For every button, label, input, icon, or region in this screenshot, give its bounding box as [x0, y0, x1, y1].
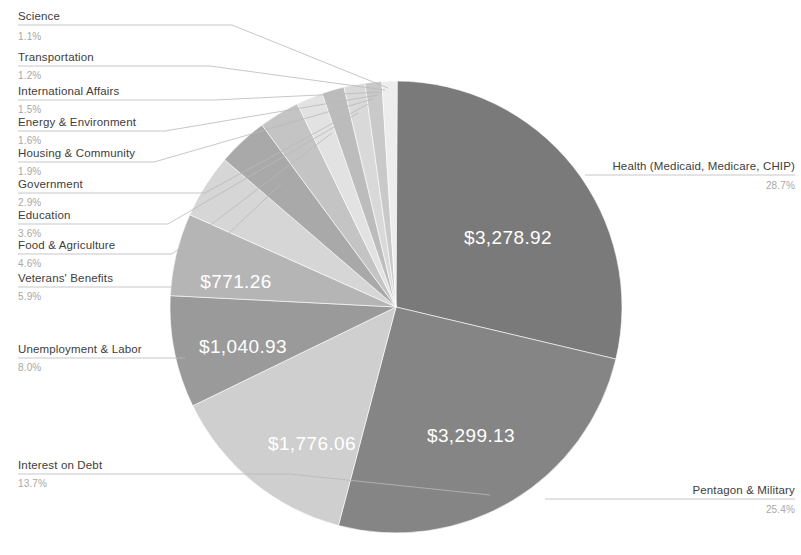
left-callout-labels: Science 1.1% Transportation 1.2% Interna… — [18, 10, 142, 489]
callout-label-international-affairs: International Affairs — [18, 85, 119, 97]
callout-label-pentagon-military: Pentagon & Military — [692, 484, 795, 496]
callout-label-science: Science — [18, 10, 60, 22]
callout-pct-unemployment-labor: 8.0% — [18, 362, 41, 373]
callout-pct-government: 2.9% — [18, 197, 41, 208]
callout-label-health: Health (Medicaid, Medicare, CHIP) — [612, 160, 795, 172]
value-label-health: $3,278.92 — [464, 227, 552, 248]
value-label-veterans-benefits: $771.26 — [200, 271, 271, 292]
callout-pct-interest-on-debt: 13.7% — [18, 478, 47, 489]
callout-pct-veterans-benefits: 5.9% — [18, 291, 41, 302]
callout-label-veterans-benefits: Veterans' Benefits — [18, 272, 113, 284]
right-callout-labels: Health (Medicaid, Medicare, CHIP) 28.7% … — [612, 160, 795, 515]
callout-label-education: Education — [18, 209, 71, 221]
callout-pct-food-agriculture: 4.6% — [18, 258, 41, 269]
callout-pct-transportation: 1.2% — [18, 70, 41, 81]
callout-pct-education: 3.6% — [18, 228, 41, 239]
callout-pct-housing-community: 1.9% — [18, 166, 41, 177]
callout-label-unemployment-labor: Unemployment & Labor — [18, 343, 142, 355]
callout-label-energy-environment: Energy & Environment — [18, 116, 137, 128]
callout-label-transportation: Transportation — [18, 51, 94, 63]
callout-label-housing-community: Housing & Community — [18, 147, 135, 159]
pie-slices-group — [170, 81, 622, 533]
callout-pct-pentagon-military: 25.4% — [766, 504, 795, 515]
chart-canvas: Science 1.1% Transportation 1.2% Interna… — [0, 0, 801, 555]
value-label-unemployment-labor: $1,040.93 — [199, 336, 287, 357]
callout-label-interest-on-debt: Interest on Debt — [18, 459, 103, 471]
callout-pct-international-affairs: 1.5% — [18, 104, 41, 115]
value-label-interest-on-debt: $1,776.06 — [268, 433, 356, 454]
callout-pct-health: 28.7% — [766, 180, 795, 191]
callout-label-government: Government — [18, 178, 83, 190]
callout-label-food-agriculture: Food & Agriculture — [18, 239, 115, 251]
pie-chart: Science 1.1% Transportation 1.2% Interna… — [0, 0, 801, 555]
callout-pct-energy-environment: 1.6% — [18, 135, 41, 146]
callout-pct-science: 1.1% — [18, 31, 41, 42]
value-label-pentagon-military: $3,299.13 — [427, 425, 515, 446]
